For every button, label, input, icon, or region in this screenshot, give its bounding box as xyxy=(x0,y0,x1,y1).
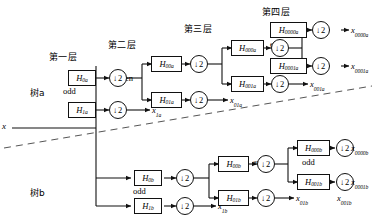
layer-4-title: 第四层 xyxy=(262,5,290,18)
downsample-factor: 2 xyxy=(266,193,270,203)
filter-H000b-sub: 000b xyxy=(311,147,322,153)
layer-1-title: 第一层 xyxy=(49,50,77,63)
filter-H000a-sub: 000a xyxy=(245,47,256,53)
downsample-factor: 2 xyxy=(280,79,284,89)
downsampler-b1-bottom[interactable]: ↓2 xyxy=(176,197,194,215)
downsampler-a3-bottom[interactable]: ↓2 xyxy=(271,75,289,93)
filter-H1a-sub: 1a xyxy=(82,109,87,115)
filter-H1a[interactable]: H1a xyxy=(68,102,96,118)
filter-H0b-sub: 0b xyxy=(148,177,153,183)
output-x01b-sub: 01b xyxy=(300,200,308,206)
input-signal-label: x xyxy=(2,121,6,131)
filter-H000a[interactable]: H000a xyxy=(231,40,264,56)
output-x01a: x01a xyxy=(230,95,242,107)
filter-H001b-sub: 001b xyxy=(311,181,322,187)
down-arrow-icon: ↓ xyxy=(340,144,344,153)
output-x0000b: x0000b xyxy=(351,143,368,155)
down-arrow-icon: ↓ xyxy=(180,202,184,211)
output-x001a: x001a xyxy=(310,79,325,91)
filter-H001a[interactable]: H001a xyxy=(231,76,264,92)
output-x01a-sub: 01a xyxy=(234,102,242,108)
filter-H0a-sub: 0a xyxy=(82,77,87,83)
output-x01b: x01b xyxy=(296,193,308,205)
downsample-factor: 2 xyxy=(280,43,284,53)
tree-divider-dashed-line xyxy=(4,86,372,148)
filter-H00b[interactable]: H00b xyxy=(218,156,249,172)
downsample-factor: 2 xyxy=(185,173,189,183)
downsampler-a2-top[interactable]: ↓2 xyxy=(190,55,208,73)
downsampler-a2-bottom[interactable]: ↓2 xyxy=(190,91,208,109)
downsample-factor: 2 xyxy=(345,143,349,153)
down-arrow-icon: ↓ xyxy=(316,26,320,35)
downsampler-b2-top[interactable]: ↓2 xyxy=(257,155,275,173)
downsample-factor: 2 xyxy=(185,201,189,211)
down-arrow-icon: ↓ xyxy=(113,74,117,83)
down-arrow-icon: ↓ xyxy=(340,178,344,187)
output-x0001b-sub: 0001b xyxy=(355,184,369,190)
filter-H00a-sub: 00a xyxy=(166,63,174,69)
output-x001b: x001b xyxy=(337,193,352,205)
downsampler-b2-bottom[interactable]: ↓2 xyxy=(257,189,275,207)
filter-H001a-sub: 001a xyxy=(245,83,256,89)
layer-3-title: 第三层 xyxy=(184,22,212,35)
downsample-factor: 2 xyxy=(199,95,203,105)
downsampler-a4-bottom[interactable]: ↓2 xyxy=(312,57,330,75)
down-arrow-icon: ↓ xyxy=(275,44,279,53)
downsample-factor: 2 xyxy=(266,159,270,169)
filter-H001b[interactable]: H001b xyxy=(297,174,330,190)
downsample-factor: 2 xyxy=(321,61,325,71)
output-x0001b: x0001b xyxy=(351,177,368,189)
output-x0001a: x0001a xyxy=(351,61,368,73)
down-arrow-icon: ↓ xyxy=(316,62,320,71)
layer-2-title: 第二层 xyxy=(108,38,136,51)
filter-H1b[interactable]: H1b xyxy=(134,198,162,214)
tree-a-label: 树a xyxy=(30,86,45,99)
filter-H0000a-sub: 0000a xyxy=(285,29,299,35)
filter-H01b-sub: 01b xyxy=(233,197,241,203)
output-x1a-sub: 1a xyxy=(156,112,161,118)
downsample-factor: 2 xyxy=(345,177,349,187)
output-x001b-sub: 001b xyxy=(341,200,352,206)
downsample-factor: 2 xyxy=(118,73,122,83)
down-arrow-icon: ↓ xyxy=(261,160,265,169)
output-x1b: x1b xyxy=(218,201,227,213)
parity-b4-odd: odd xyxy=(302,157,315,167)
parity-a1-odd: odd xyxy=(63,86,76,96)
filter-H0b[interactable]: H0b xyxy=(134,170,162,186)
down-arrow-icon: ↓ xyxy=(180,174,184,183)
output-x0000a-sub: 0000a xyxy=(355,32,369,38)
filter-H000b[interactable]: H000b xyxy=(297,140,330,156)
downsampler-a3-top[interactable]: ↓2 xyxy=(271,39,289,57)
downsampler-a1-top[interactable]: ↓2 xyxy=(109,69,127,87)
down-arrow-icon: ↓ xyxy=(194,96,198,105)
output-x1b-sub: 1b xyxy=(222,208,227,214)
down-arrow-icon: ↓ xyxy=(194,60,198,69)
output-x001a-sub: 001a xyxy=(314,86,325,92)
downsample-factor: 2 xyxy=(118,105,122,115)
filter-H0000a[interactable]: H0000a xyxy=(270,22,307,38)
downsampler-b1-top[interactable]: ↓2 xyxy=(176,169,194,187)
output-x0000b-sub: 0000b xyxy=(355,150,369,156)
filter-H00b-sub: 00b xyxy=(233,163,241,169)
filter-bank-tree-diagram: 第一层 第二层 第三层 第四层 树a 树b x odd even odd eve… xyxy=(0,0,376,217)
downsampler-a1-bottom[interactable]: ↓2 xyxy=(109,101,127,119)
down-arrow-icon: ↓ xyxy=(261,194,265,203)
output-x1a: x1a xyxy=(152,105,161,117)
output-x0000a: x0000a xyxy=(351,25,368,37)
filter-H0a[interactable]: H0a xyxy=(68,70,96,86)
downsampler-a4-top[interactable]: ↓2 xyxy=(312,21,330,39)
downsample-factor: 2 xyxy=(321,25,325,35)
filter-H00a[interactable]: H00a xyxy=(151,56,182,72)
filter-H0001a[interactable]: H0001a xyxy=(270,58,307,74)
parity-b1-odd: odd xyxy=(133,186,146,196)
downsample-factor: 2 xyxy=(199,59,203,69)
output-x0001a-sub: 0001a xyxy=(355,68,369,74)
tree-b-label: 树b xyxy=(30,186,45,199)
filter-H1b-sub: 1b xyxy=(148,205,153,211)
filter-H01a-sub: 01a xyxy=(166,99,174,105)
down-arrow-icon: ↓ xyxy=(275,80,279,89)
down-arrow-icon: ↓ xyxy=(113,106,117,115)
filter-H0001a-sub: 0001a xyxy=(285,65,299,71)
